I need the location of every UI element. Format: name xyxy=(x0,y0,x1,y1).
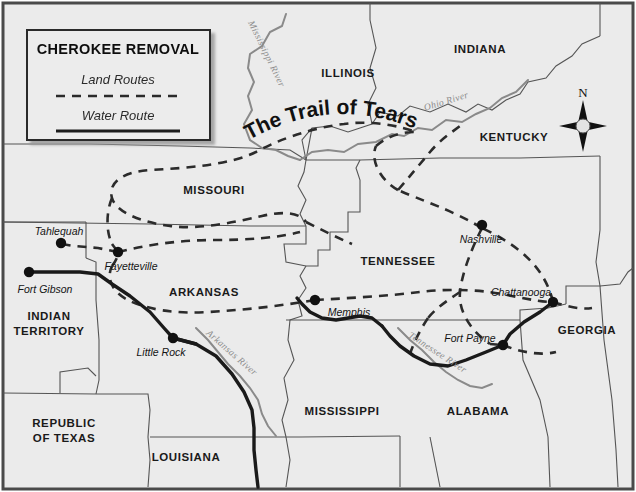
city-dot xyxy=(56,238,66,248)
state-label: ILLINOIS xyxy=(321,67,374,79)
city-label: Little Rock xyxy=(136,346,186,358)
state-label: ALABAMA xyxy=(447,405,509,417)
state-label-line: REPUBLIC xyxy=(32,417,96,429)
city-label: Memphis xyxy=(328,306,371,318)
state-label: MISSOURI xyxy=(183,184,245,196)
legend: CHEROKEE REMOVAL Land Routes Water Route xyxy=(27,30,210,140)
city-dot xyxy=(113,247,123,257)
city-label: Fayetteville xyxy=(104,260,157,272)
legend-label-land-routes: Land Routes xyxy=(81,72,155,87)
trail-of-tears-map: The Trail of Tears ILLINOISINDIANAKENTUC… xyxy=(0,0,636,492)
state-label-line: OF TEXAS xyxy=(33,432,95,444)
city-label: Fort Payne xyxy=(444,332,496,344)
legend-title: CHEROKEE REMOVAL xyxy=(37,41,199,57)
city-label: Chattanooga xyxy=(491,286,551,298)
city-label: Nashville xyxy=(460,233,503,245)
state-label: KENTUCKY xyxy=(480,131,549,143)
state-label: ARKANSAS xyxy=(169,286,239,298)
compass-north-label: N xyxy=(578,85,588,100)
map-canvas: The Trail of Tears ILLINOISINDIANAKENTUC… xyxy=(0,0,636,492)
state-label: MISSISSIPPI xyxy=(305,405,380,417)
city-dot xyxy=(310,295,320,305)
city-dot xyxy=(168,333,178,343)
city-dot xyxy=(24,267,34,277)
compass-hub xyxy=(576,119,590,133)
state-label-line: TERRITORY xyxy=(13,325,84,337)
city-dot xyxy=(477,220,487,230)
state-label-line: INDIAN xyxy=(27,310,70,322)
city-dot xyxy=(498,340,508,350)
state-label: LOUISIANA xyxy=(152,451,221,463)
state-label: TENNESSEE xyxy=(360,255,435,267)
city-label: Tahlequah xyxy=(35,225,84,237)
city-label: Fort Gibson xyxy=(18,283,73,295)
state-label: INDIANA xyxy=(454,43,506,55)
legend-label-water-route: Water Route xyxy=(82,108,155,123)
state-label: GEORGIA xyxy=(558,324,617,336)
city-dot xyxy=(548,297,558,307)
